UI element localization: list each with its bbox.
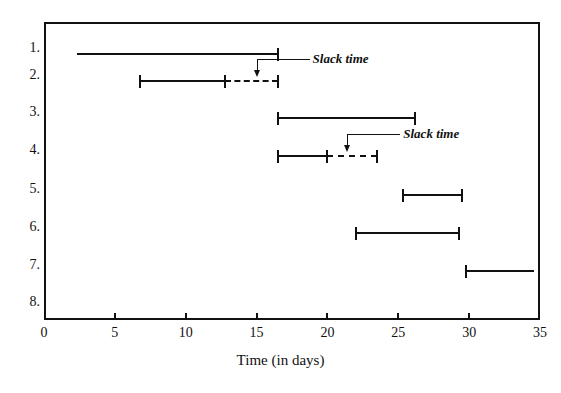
task-bar-4-start-cap: [277, 150, 279, 163]
task-bar-2-end-cap: [224, 75, 226, 88]
x-tick-label-30: 30: [454, 325, 484, 340]
task-slack-4-end-cap: [376, 150, 378, 163]
task-bar-7: [466, 270, 534, 272]
task-bar-2: [140, 80, 225, 82]
row-label-7: 7.: [6, 258, 40, 272]
task-bar-4-end-cap: [326, 150, 328, 163]
x-tick-label-0: 0: [29, 325, 59, 340]
task-bar-3-start-cap: [277, 112, 279, 125]
x-tick-5: [114, 313, 116, 320]
task-bar-1: [77, 53, 278, 55]
task-slack-bar-2: [225, 80, 277, 82]
x-axis-title: Time (in days): [0, 352, 561, 369]
slack-leader-arrowhead-1: [254, 70, 260, 77]
slack-time-label-1: Slack time: [313, 51, 369, 67]
row-label-2: 2.: [6, 68, 40, 82]
task-bar-5-start-cap: [402, 189, 404, 202]
x-tick-label-35: 35: [525, 325, 555, 340]
x-tick-10: [185, 313, 187, 320]
task-bar-5: [403, 194, 463, 196]
task-bar-3: [278, 117, 415, 119]
slack-leader-arrowhead-2: [344, 145, 350, 152]
row-label-6: 6.: [6, 220, 40, 234]
slack-leader-horizontal-1: [257, 59, 310, 60]
task-bar-2-start-cap: [139, 75, 141, 88]
x-tick-25: [397, 313, 399, 320]
row-label-1: 1.: [6, 41, 40, 55]
x-tick-15: [256, 313, 258, 320]
x-tick-label-15: 15: [242, 325, 272, 340]
task-bar-4: [278, 155, 328, 157]
row-label-3: 3.: [6, 105, 40, 119]
slack-leader-horizontal-2: [347, 134, 400, 135]
task-bar-5-end-cap: [461, 189, 463, 202]
task-bar-7-start-cap: [465, 265, 467, 278]
x-tick-30: [468, 313, 470, 320]
task-bar-3-end-cap: [414, 112, 416, 125]
task-slack-2-end-cap: [277, 75, 279, 88]
x-tick-20: [326, 313, 328, 320]
x-tick-label-25: 25: [383, 325, 413, 340]
task-slack-bar-4: [327, 155, 377, 157]
gantt-chart-figure: 1.2.3.4.5.6.7.8. Slack timeSlack time 05…: [0, 0, 561, 393]
task-bar-6: [356, 232, 459, 234]
x-tick-label-10: 10: [171, 325, 201, 340]
slack-time-label-2: Slack time: [403, 126, 459, 142]
task-bar-6-start-cap: [355, 227, 357, 240]
x-tick-label-5: 5: [100, 325, 130, 340]
row-label-4: 4.: [6, 143, 40, 157]
row-label-5: 5.: [6, 182, 40, 196]
x-tick-label-20: 20: [312, 325, 342, 340]
row-label-8: 8.: [6, 295, 40, 309]
task-bar-6-end-cap: [458, 227, 460, 240]
